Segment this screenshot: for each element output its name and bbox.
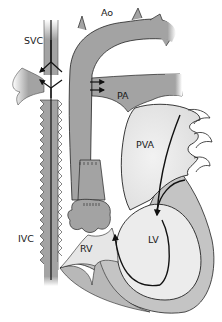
left-pulmonary-artery xyxy=(13,68,44,105)
label-pva: PVA xyxy=(136,139,155,150)
label-rv: RV xyxy=(80,243,93,254)
heart-diagram: SVC Ao PA PVA IVC RV LV xyxy=(0,0,222,322)
label-pa: PA xyxy=(117,90,129,101)
label-lv: LV xyxy=(148,234,159,245)
label-ao: Ao xyxy=(101,7,113,18)
label-svc: SVC xyxy=(24,35,44,46)
label-ivc: IVC xyxy=(18,233,34,244)
